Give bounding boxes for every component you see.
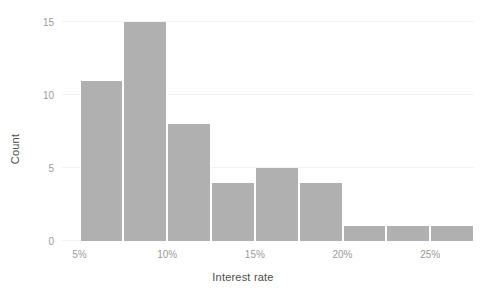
bar — [80, 81, 124, 241]
bar — [386, 226, 430, 241]
x-tick-label: 15% — [245, 249, 265, 260]
x-tick-label: 20% — [332, 249, 352, 260]
bar — [343, 226, 387, 241]
bar — [167, 124, 211, 241]
x-tick-label: 10% — [157, 249, 177, 260]
y-tick-label: 0 — [14, 236, 54, 247]
y-tick-label: 10 — [14, 90, 54, 101]
histogram-chart: Count 051015 5%10%15%20%25% Interest rat… — [0, 0, 486, 298]
bar — [255, 168, 299, 241]
bar — [430, 226, 474, 241]
x-axis-title-label: Interest rate — [212, 271, 273, 283]
x-tick-label: 25% — [420, 249, 440, 260]
y-axis-tick-labels: 051015 — [10, 15, 54, 241]
x-axis-tick-labels: 5%10%15%20%25% — [62, 249, 474, 265]
bar — [299, 183, 343, 241]
bar — [123, 22, 167, 241]
y-tick-label: 15 — [14, 17, 54, 28]
bar — [211, 183, 255, 241]
x-axis-title: Interest rate — [0, 271, 486, 283]
plot-area — [62, 15, 474, 241]
x-tick-label: 5% — [72, 249, 86, 260]
y-tick-label: 5 — [14, 163, 54, 174]
